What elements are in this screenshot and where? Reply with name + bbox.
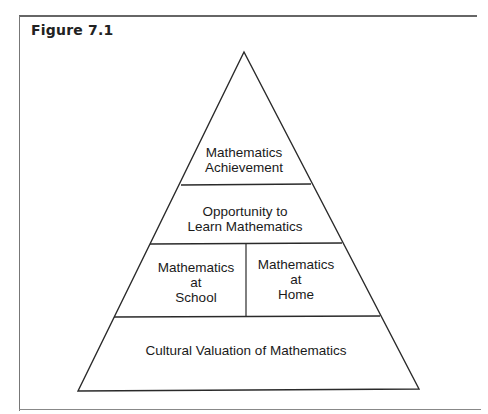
- level-base-label: Cultural Valuation of Mathematics: [118, 343, 374, 358]
- label-line: School: [146, 290, 246, 305]
- level-top-label: Mathematics Achievement: [184, 145, 304, 175]
- label-line: Mathematics: [246, 257, 346, 272]
- level-school-label: Mathematics at School: [146, 260, 246, 305]
- divider-level-1: [181, 184, 311, 185]
- label-line: at: [246, 272, 346, 287]
- label-line: Mathematics: [146, 260, 246, 275]
- level-opportunity-label: Opportunity to Learn Mathematics: [160, 204, 330, 234]
- divider-level-2: [150, 243, 342, 244]
- label-line: Achievement: [184, 160, 304, 175]
- label-line: Learn Mathematics: [160, 219, 330, 234]
- figure: Figure 7.1 Mathematics Achievement Oppor…: [0, 0, 488, 414]
- label-line: at: [146, 275, 246, 290]
- label-line: Home: [246, 287, 346, 302]
- level-home-label: Mathematics at Home: [246, 257, 346, 302]
- label-line: Cultural Valuation of Mathematics: [118, 343, 374, 358]
- divider-level-3: [114, 316, 380, 317]
- label-line: Opportunity to: [160, 204, 330, 219]
- label-line: Mathematics: [184, 145, 304, 160]
